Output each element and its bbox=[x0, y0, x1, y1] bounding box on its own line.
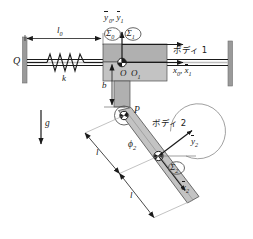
left-wall bbox=[23, 37, 28, 83]
angle-phi2-arc bbox=[159, 104, 226, 159]
dimension-b bbox=[40, 63, 125, 108]
right-wall bbox=[228, 41, 233, 86]
mechanism-diagram: y0, y1 Σ0 Σ1 l0 Q k ボディ 1 x0, x1 O O1 b … bbox=[0, 0, 253, 239]
dimension-l0 bbox=[25, 33, 103, 45]
body-1 bbox=[103, 44, 167, 107]
frame-sigma0-circle bbox=[105, 28, 121, 41]
diagram-canvas bbox=[0, 0, 253, 239]
frame-sigma1-circle bbox=[125, 28, 141, 41]
